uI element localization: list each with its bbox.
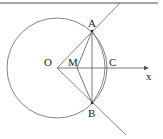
arc-AB-through-C: [92, 31, 105, 103]
segment-MA: [77, 31, 92, 68]
label-C: C: [109, 56, 116, 68]
point-B: [91, 102, 94, 105]
label-O: O: [44, 56, 52, 68]
label-M: M: [68, 56, 78, 68]
geometry-diagram: O M A C B x: [0, 0, 163, 139]
label-A: A: [88, 17, 96, 29]
label-B: B: [88, 107, 95, 119]
segment-MB: [77, 68, 92, 103]
point-A: [91, 30, 94, 33]
label-x-axis: x: [146, 70, 152, 82]
